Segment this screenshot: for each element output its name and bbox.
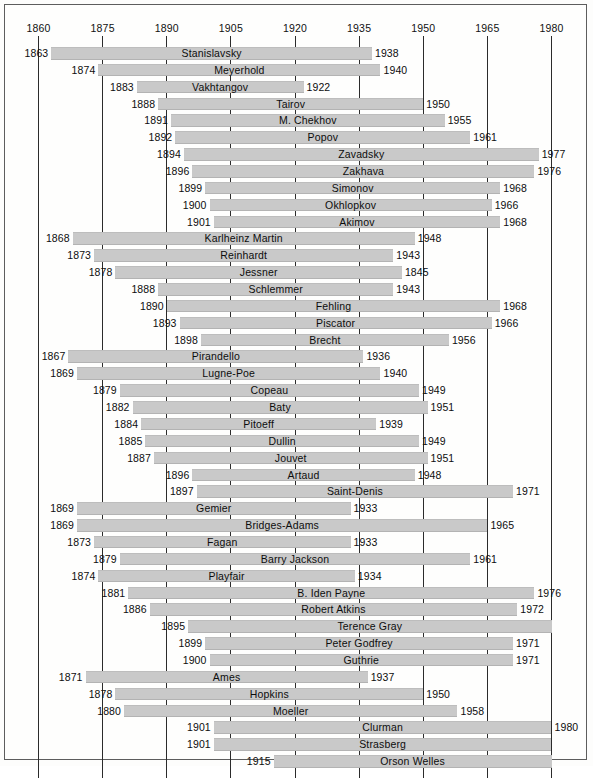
timeline-end-year: 1968	[503, 182, 527, 195]
timeline-row[interactable]: Robert Atkins18861972	[0, 601, 593, 618]
x-axis-tick-label: 1890	[155, 22, 179, 34]
timeline-row[interactable]: Okhlopkov19001966	[0, 197, 593, 214]
timeline-row[interactable]: Karlheinz Martin18681948	[0, 230, 593, 247]
x-axis-tick-label: 1875	[91, 22, 115, 34]
timeline-row[interactable]: Terence Gray1895	[0, 618, 593, 635]
timeline-bar-label: Baty	[133, 401, 428, 414]
timeline-row[interactable]: Tairov18881950	[0, 96, 593, 113]
timeline-start-year: 1880	[80, 705, 121, 718]
timeline-bar-label: Hopkins	[115, 688, 423, 701]
timeline-row[interactable]: Baty18821951	[0, 399, 593, 416]
timeline-bar-label: Saint-Denis	[197, 485, 513, 498]
timeline-end-year: 1961	[473, 553, 497, 566]
timeline-end-year: 1940	[384, 64, 408, 77]
timeline-row[interactable]: Jouvet18871951	[0, 450, 593, 467]
timeline-end-year: 1940	[384, 367, 408, 380]
timeline-start-year: 1878	[71, 688, 112, 701]
timeline-row[interactable]: Dullin18851949	[0, 433, 593, 450]
timeline-bar-label: Playfair	[98, 570, 355, 583]
timeline-row[interactable]: Simonov18991968	[0, 180, 593, 197]
timeline-row[interactable]: Peter Godfrey18991971	[0, 635, 593, 652]
timeline-row[interactable]: Pirandello18671936	[0, 348, 593, 365]
timeline-row[interactable]: Popov18921961	[0, 129, 593, 146]
timeline-row[interactable]: Piscator18931966	[0, 315, 593, 332]
timeline-start-year: 1874	[54, 64, 95, 77]
timeline-row[interactable]: Lugne-Poe18691940	[0, 365, 593, 382]
timeline-bar-label: Guthrie	[210, 654, 514, 667]
timeline-bar-label: Terence Gray	[188, 620, 551, 633]
timeline-start-year: 1878	[71, 266, 112, 279]
timeline-end-year: 1948	[418, 232, 442, 245]
timeline-bar-label: Schlemmer	[158, 283, 393, 296]
timeline-end-year: 1976	[537, 165, 561, 178]
timeline-bar-label: Brecht	[201, 334, 449, 347]
timeline-row[interactable]: Ames18711937	[0, 669, 593, 686]
timeline-start-year: 1874	[54, 570, 95, 583]
timeline-end-year: 1972	[520, 603, 544, 616]
timeline-row[interactable]: Meyerhold18741940	[0, 62, 593, 79]
timeline-row[interactable]: Barry Jackson18791961	[0, 551, 593, 568]
timeline-row[interactable]: Brecht18981956	[0, 332, 593, 349]
timeline-bar-label: Clurman	[214, 721, 552, 734]
timeline-row[interactable]: Saint-Denis18971971	[0, 483, 593, 500]
timeline-end-year: 1976	[537, 587, 561, 600]
timeline-row[interactable]: Hopkins18781950	[0, 686, 593, 703]
timeline-row[interactable]: Guthrie19001971	[0, 652, 593, 669]
timeline-start-year: 1885	[101, 435, 142, 448]
timeline-end-year: 1980	[555, 721, 579, 734]
timeline-end-year: 1937	[371, 671, 395, 684]
timeline-row[interactable]: Orson Welles1915	[0, 753, 593, 770]
timeline-end-year: 1951	[431, 452, 455, 465]
timeline-start-year: 1883	[93, 81, 134, 94]
timeline-row[interactable]: Schlemmer18881943	[0, 281, 593, 298]
timeline-row[interactable]: Reinhardt18731943	[0, 247, 593, 264]
timeline-row[interactable]: Zakhava18961976	[0, 163, 593, 180]
timeline-row[interactable]: Moeller18801958	[0, 703, 593, 720]
timeline-row[interactable]: M. Chekhov18911955	[0, 112, 593, 129]
timeline-row[interactable]: Zavadsky18941977	[0, 146, 593, 163]
timeline-bar-label: Fehling	[167, 300, 500, 313]
timeline-row[interactable]: Copeau18791949	[0, 382, 593, 399]
timeline-start-year: 1897	[153, 485, 194, 498]
timeline-bar-label: Fagan	[94, 536, 351, 549]
timeline-row[interactable]: Gemier18691933	[0, 500, 593, 517]
timeline-bar-label: Piscator	[180, 317, 492, 330]
timeline-bar-label: Dullin	[145, 435, 419, 448]
timeline-end-year: 1971	[516, 485, 540, 498]
timeline-bar-label: Jouvet	[154, 452, 428, 465]
timeline-start-year: 1891	[127, 114, 168, 127]
timeline-end-year: 1968	[503, 300, 527, 313]
timeline-row[interactable]: Artaud18961948	[0, 467, 593, 484]
timeline-row[interactable]: Strasberg1901	[0, 736, 593, 753]
timeline-bar-label: Simonov	[205, 182, 500, 195]
timeline-bar-label: Robert Atkins	[150, 603, 518, 616]
timeline-end-year: 1943	[396, 283, 420, 296]
timeline-bar-label: Artaud	[192, 469, 414, 482]
timeline-row[interactable]: Akimov19011968	[0, 214, 593, 231]
timeline-end-year: 1845	[405, 266, 429, 279]
x-axis-tick-label: 1905	[219, 22, 243, 34]
timeline-row[interactable]: Jessner18781845	[0, 264, 593, 281]
timeline-bar-label: Barry Jackson	[120, 553, 471, 566]
timeline-row[interactable]: Fagan18731933	[0, 534, 593, 551]
timeline-row[interactable]: Vakhtangov18831922	[0, 79, 593, 96]
timeline-row[interactable]: Fehling18901968	[0, 298, 593, 315]
timeline-bar-label: Akimov	[214, 216, 500, 229]
timeline-start-year: 1873	[50, 536, 91, 549]
timeline-start-year: 1901	[170, 738, 211, 751]
timeline-row[interactable]: Stanislavsky18631938	[0, 45, 593, 62]
timeline-row[interactable]: Pitoeff18841939	[0, 416, 593, 433]
timeline-start-year: 1901	[170, 721, 211, 734]
timeline-start-year: 1882	[89, 401, 130, 414]
timeline-row[interactable]: Clurman19011980	[0, 719, 593, 736]
timeline-end-year: 1956	[452, 334, 476, 347]
timeline-row[interactable]: Playfair18741934	[0, 568, 593, 585]
timeline-bar-label: Okhlopkov	[210, 199, 492, 212]
timeline-bar-label: Gemier	[77, 502, 351, 515]
x-axis-tick-label: 1965	[475, 22, 499, 34]
timeline-row[interactable]: B. Iden Payne18811976	[0, 585, 593, 602]
timeline-end-year: 1922	[307, 81, 331, 94]
timeline-start-year: 1869	[33, 502, 74, 515]
timeline-end-year: 1968	[503, 216, 527, 229]
timeline-row[interactable]: Bridges-Adams18691965	[0, 517, 593, 534]
